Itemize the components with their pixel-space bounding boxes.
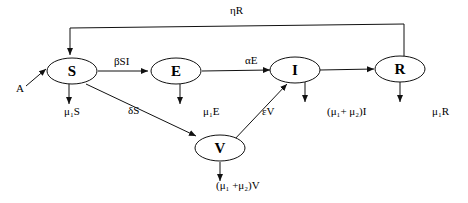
edge-r-to-s — [70, 24, 404, 57]
label-s-to-v: δS — [128, 104, 139, 116]
svg-text:I: I — [292, 62, 298, 78]
node-i: I — [270, 57, 320, 83]
svg-text:R: R — [395, 61, 406, 77]
label-s-to-e: βSI — [114, 55, 130, 67]
svg-text:S: S — [68, 63, 76, 79]
edge-e-to-i — [202, 70, 270, 71]
node-r: R — [375, 56, 425, 82]
edge-i-to-r — [320, 69, 374, 70]
label-recruitment: A — [16, 82, 24, 94]
label-e-death: μ₁E — [203, 105, 220, 117]
svg-text:V: V — [215, 140, 226, 156]
label-r-to-s: ηR — [230, 4, 244, 16]
label-s-death: μ₁S — [64, 105, 80, 117]
node-e: E — [151, 58, 201, 84]
label-v-death: (μ₁ +μ₂)V — [216, 179, 260, 192]
svg-text:E: E — [171, 63, 181, 79]
edge-v-to-i — [233, 84, 287, 141]
label-i-death: (μ₁+ μ₂)I — [327, 105, 367, 118]
node-s: S — [47, 58, 97, 84]
seirv-diagram: S E I R V A βSI αE ηR δS εV μ₁S μ₁E (μ₁+… — [0, 0, 468, 203]
label-e-to-i: αE — [245, 54, 258, 66]
label-v-to-i: εV — [262, 105, 275, 117]
edge-recruitment — [26, 69, 46, 86]
label-r-death: μ₁R — [432, 105, 450, 117]
node-v: V — [195, 135, 245, 161]
